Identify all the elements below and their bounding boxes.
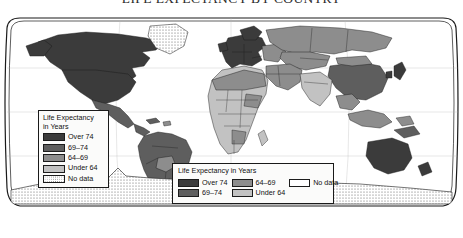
legend-vertical: Life Expectancy in Years Over 74 69–74 6… xyxy=(38,110,109,188)
legend-h-swatch-no-data xyxy=(289,179,310,187)
legend-label-69-74: 69–74 xyxy=(68,144,88,152)
legend-label-no-data: No data xyxy=(68,175,93,183)
legend-h-item-under-64: Under 64 xyxy=(232,188,286,198)
legend-h-label-over-74: Over 74 xyxy=(202,179,228,187)
legend-item-over-74: Over 74 xyxy=(43,132,105,142)
legend-h-label-under-64: Under 64 xyxy=(256,189,286,197)
legend-h-swatch-69-74 xyxy=(178,189,199,197)
legend-swatch-under-64 xyxy=(43,165,65,173)
page-title: LIFE EXPECTANCY BY COUNTRY xyxy=(0,0,463,7)
legend-item-69-74: 69–74 xyxy=(43,143,105,153)
legend-h-item-no-data: No data xyxy=(289,178,338,188)
legend-vertical-title-line2: in Years xyxy=(43,123,105,132)
legend-label-under-64: Under 64 xyxy=(68,164,98,172)
legend-label-over-74: Over 74 xyxy=(68,133,94,141)
legend-swatch-64-69 xyxy=(43,154,65,162)
legend-h-item-over-74: Over 74 xyxy=(178,178,228,188)
legend-label-64-69: 64–69 xyxy=(68,154,88,162)
legend-swatch-over-74 xyxy=(43,133,65,141)
legend-h-swatch-over-74 xyxy=(178,179,199,187)
legend-h-swatch-64-69 xyxy=(232,179,253,187)
legend-h-label-no-data: No data xyxy=(313,179,338,187)
legend-h-label-64-69: 64–69 xyxy=(256,179,276,187)
legend-h-item-69-74: 69–74 xyxy=(178,188,228,198)
legend-h-swatch-under-64 xyxy=(232,189,253,197)
legend-item-no-data: No data xyxy=(43,174,105,184)
legend-h-label-69-74: 69–74 xyxy=(202,189,222,197)
legend-swatch-no-data xyxy=(43,175,65,183)
legend-item-64-69: 64–69 xyxy=(43,153,105,163)
legend-h-item-64-69: 64–69 xyxy=(232,178,286,188)
legend-horizontal: Life Expectancy in Years Over 74 69–74 6… xyxy=(172,163,334,204)
legend-item-under-64: Under 64 xyxy=(43,163,105,173)
legend-horizontal-title: Life Expectancy in Years xyxy=(178,167,329,176)
region-korea xyxy=(386,71,392,78)
region-mongolia xyxy=(336,56,372,66)
legend-swatch-69-74 xyxy=(43,144,65,152)
map-figure: LIFE EXPECTANCY BY COUNTRY xyxy=(0,0,463,238)
